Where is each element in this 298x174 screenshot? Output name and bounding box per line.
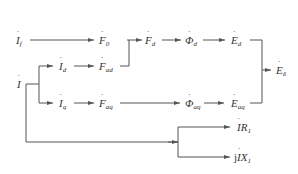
node-id: ˙Id — [59, 61, 66, 74]
node-edelta: ˙Eδ — [276, 65, 286, 78]
node-jix1: j˙IX1 — [234, 152, 251, 165]
node-if: ˙If — [16, 35, 22, 48]
node-eaq: ˙Eaq — [231, 98, 245, 111]
node-phiaq: ˙Φaq — [185, 98, 200, 111]
node-iq: ˙Iq — [59, 98, 66, 111]
node-i: ˙I — [17, 79, 21, 90]
node-fd: ˙Fd — [145, 35, 155, 48]
node-ed: ˙Ed — [231, 35, 241, 48]
edge-ed-merge — [250, 40, 262, 103]
node-f0: ˙F0 — [99, 35, 109, 48]
edge-fad-fd — [120, 40, 129, 66]
node-ir1: ˙IR1 — [237, 122, 251, 135]
phasor-flow-diagram — [0, 0, 298, 174]
node-faq: ˙Faq — [99, 98, 113, 111]
node-phid: ˙Φd — [185, 35, 197, 48]
node-fad: ˙Fad — [99, 61, 113, 74]
